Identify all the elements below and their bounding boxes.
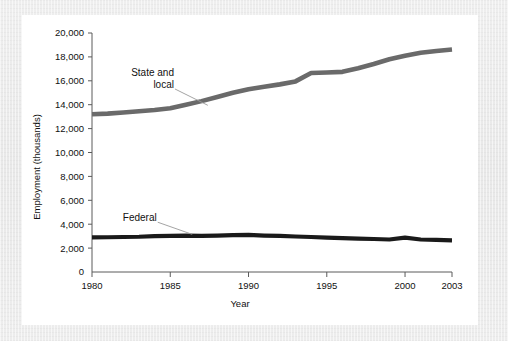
y-tick-label: 20,000: [55, 27, 84, 38]
x-tick-label: 2000: [394, 280, 415, 291]
y-tick-label: 14,000: [55, 99, 84, 110]
chart-annotations-group: State andlocalFederal: [123, 67, 208, 234]
x-axis-title: Year: [230, 298, 249, 309]
x-tick-label: 1985: [160, 280, 181, 291]
series-line-state-and-local: [92, 49, 452, 114]
state-and-local-label-line: local: [153, 79, 174, 90]
federal-label: Federal: [123, 212, 192, 234]
y-axis-tick-marks: [88, 33, 92, 248]
y-tick-label: 0: [79, 266, 84, 277]
x-tick-label: 1980: [81, 280, 102, 291]
y-axis-tick-labels: 02,0004,0006,0008,00010,00012,00014,0001…: [55, 27, 84, 277]
federal-label-leader-line: [158, 222, 192, 234]
x-tick-label: 1990: [238, 280, 259, 291]
y-tick-label: 10,000: [55, 147, 84, 158]
y-tick-label: 16,000: [55, 75, 84, 86]
series-line-federal: [92, 235, 452, 240]
employment-line-chart: 02,0004,0006,0008,00010,00012,00014,0001…: [22, 15, 478, 325]
state-and-local-label: State andlocal: [131, 67, 208, 105]
x-axis-tick-labels: 198019851990199520002003: [81, 280, 462, 291]
y-tick-label: 4,000: [60, 219, 84, 230]
federal-label-text: Federal: [123, 212, 157, 223]
chart-card: 02,0004,0006,0008,00010,00012,00014,0001…: [22, 15, 478, 325]
state-and-local-label-text: State andlocal: [131, 67, 174, 90]
y-tick-label: 8,000: [60, 171, 84, 182]
federal-label-line: Federal: [123, 212, 157, 223]
chart-plot-area: 02,0004,0006,0008,00010,00012,00014,0001…: [22, 15, 478, 325]
state-and-local-label-line: State and: [131, 67, 174, 78]
y-tick-label: 18,000: [55, 51, 84, 62]
y-tick-label: 2,000: [60, 243, 84, 254]
x-tick-label: 2003: [441, 280, 462, 291]
x-tick-label: 1995: [316, 280, 337, 291]
y-tick-label: 12,000: [55, 123, 84, 134]
y-axis-title: Employment (thousands): [31, 114, 42, 220]
x-axis-tick-marks: [92, 272, 452, 277]
y-tick-label: 6,000: [60, 195, 84, 206]
